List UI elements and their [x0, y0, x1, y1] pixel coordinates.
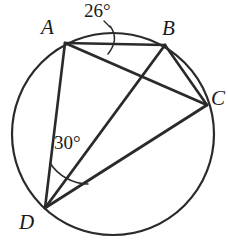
vertex-label-c: C	[211, 88, 225, 109]
vertex-label-b: B	[162, 18, 175, 39]
chord-cd	[45, 105, 207, 208]
geometry-canvas	[0, 0, 228, 249]
geometry-figure: A B C D 26° 30°	[0, 0, 228, 249]
angle-label-30: 30°	[54, 133, 81, 152]
angle-arc-26-icon	[108, 26, 114, 54]
angle-marker-26-leader	[104, 21, 110, 27]
vertex-label-a: A	[41, 17, 54, 38]
angle-label-26: 26°	[84, 1, 111, 20]
chord-ab	[65, 43, 165, 45]
vertex-label-d: D	[19, 212, 34, 233]
